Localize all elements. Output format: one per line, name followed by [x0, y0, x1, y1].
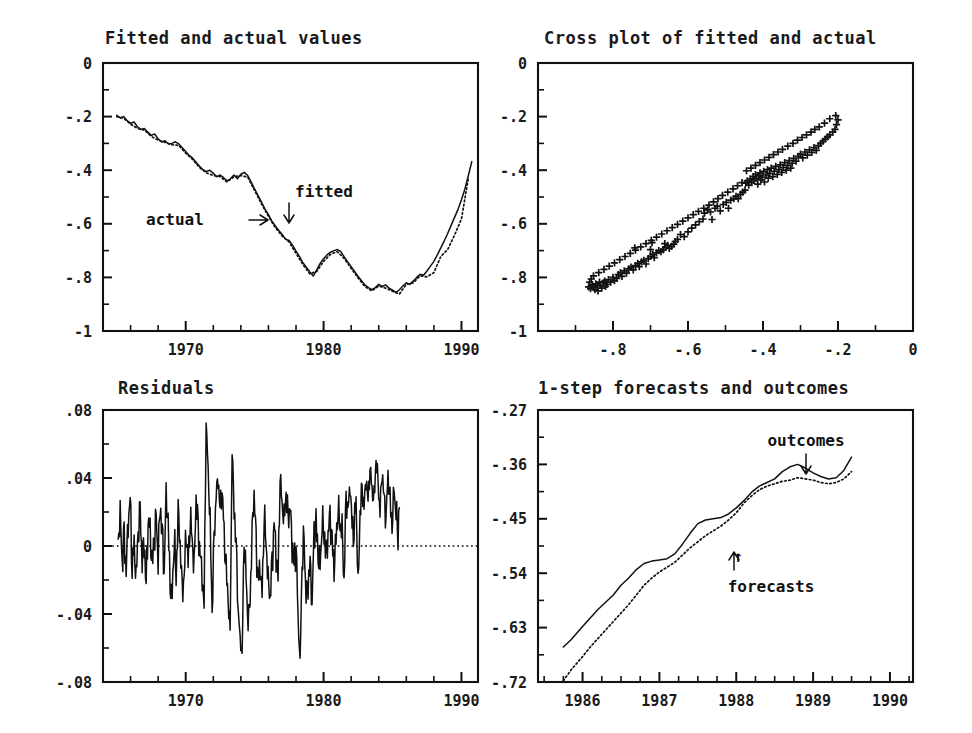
x-tick-label: -.2	[824, 341, 851, 359]
y-tick-label: -.6	[65, 215, 92, 233]
series-fitted	[117, 117, 469, 294]
x-tick-label: 1987	[641, 692, 677, 710]
x-tick-label: -.4	[749, 341, 776, 359]
plot-frame	[538, 410, 913, 682]
x-tick-label: -.6	[674, 341, 701, 359]
annotation-outcomes-label: outcomes	[767, 431, 844, 450]
x-tick-label: 1988	[718, 692, 754, 710]
panel-fitted-actual: Fitted and actual values 0-.2-.4-.6-.8-1…	[0, 22, 486, 374]
series-residual	[118, 423, 399, 658]
y-tick-label: -.27	[491, 402, 527, 420]
y-tick-label: -1	[509, 323, 527, 341]
y-tick-label: -.45	[491, 510, 527, 528]
right-arrow-icon	[249, 215, 268, 225]
y-tick-label: .04	[65, 470, 92, 488]
scatter-marker-plus	[821, 119, 828, 126]
x-tick-label: 1970	[168, 692, 204, 710]
scatter-points	[585, 112, 842, 294]
x-tick-label: 1990	[443, 341, 479, 359]
panel-title-cross-plot: Cross plot of fitted and actual	[544, 28, 877, 48]
chart-residuals: .08.040-.04-.08197019801990	[0, 374, 486, 733]
x-tick-label: 0	[908, 341, 917, 359]
scatter-marker-plus	[708, 216, 715, 223]
down-arrow-icon	[284, 203, 294, 223]
x-tick-label: 1980	[306, 341, 342, 359]
series-outcomes	[563, 457, 851, 647]
x-tick-label: 1990	[872, 692, 908, 710]
x-tick-label: 1986	[565, 692, 601, 710]
y-tick-label: -.04	[56, 606, 92, 624]
panel-title-residuals: Residuals	[118, 378, 215, 398]
y-tick-label: -.6	[500, 215, 527, 233]
panel-forecasts: 1-step forecasts and outcomes -.27-.36-.…	[486, 374, 972, 733]
plot-frame	[103, 63, 478, 331]
y-tick-label: -.8	[65, 269, 92, 287]
chart-fitted-actual: 0-.2-.4-.6-.8-1197019801990fittedactual	[0, 22, 486, 374]
y-tick-label: -.2	[65, 108, 92, 126]
y-tick-label: -.8	[500, 269, 527, 287]
annotation-actual-label: actual	[146, 210, 204, 229]
x-tick-label: -.8	[599, 341, 626, 359]
y-tick-label: -.36	[491, 456, 527, 474]
series-actual	[117, 115, 472, 292]
panel-cross-plot: Cross plot of fitted and actual 0-.2-.4-…	[486, 22, 972, 374]
chart-cross-plot: 0-.2-.4-.6-.8-1-.8-.6-.4-.20	[486, 22, 972, 374]
y-tick-label: -.63	[491, 619, 527, 637]
y-tick-label: -.4	[500, 162, 527, 180]
scatter-marker-plus	[833, 121, 840, 128]
x-tick-label: 1990	[443, 692, 479, 710]
y-tick-label: -.54	[491, 565, 527, 583]
y-tick-label: -1	[74, 323, 92, 341]
chart-forecasts: -.27-.36-.45-.54-.63-.721986198719881989…	[486, 374, 972, 733]
y-tick-label: .08	[65, 402, 92, 420]
x-tick-label: 1989	[795, 692, 831, 710]
annotation-forecasts-label: forecasts	[728, 577, 815, 596]
x-tick-label: 1980	[306, 692, 342, 710]
figure-canvas: Fitted and actual values 0-.2-.4-.6-.8-1…	[0, 0, 972, 733]
x-tick-label: 1970	[168, 341, 204, 359]
panel-residuals: Residuals .08.040-.04-.08197019801990	[0, 374, 486, 733]
y-tick-label: -.4	[65, 162, 92, 180]
y-tick-label: 0	[83, 538, 92, 556]
y-tick-label: -.2	[500, 108, 527, 126]
y-tick-label: -.08	[56, 674, 92, 692]
panel-title-forecasts: 1-step forecasts and outcomes	[538, 378, 849, 398]
annotation-fitted-label: fitted	[295, 182, 353, 201]
y-tick-label: 0	[83, 55, 92, 73]
y-tick-label: 0	[518, 55, 527, 73]
panel-title-fitted-actual: Fitted and actual values	[105, 28, 363, 48]
scatter-marker-plus	[684, 228, 691, 235]
y-tick-label: -.72	[491, 674, 527, 692]
